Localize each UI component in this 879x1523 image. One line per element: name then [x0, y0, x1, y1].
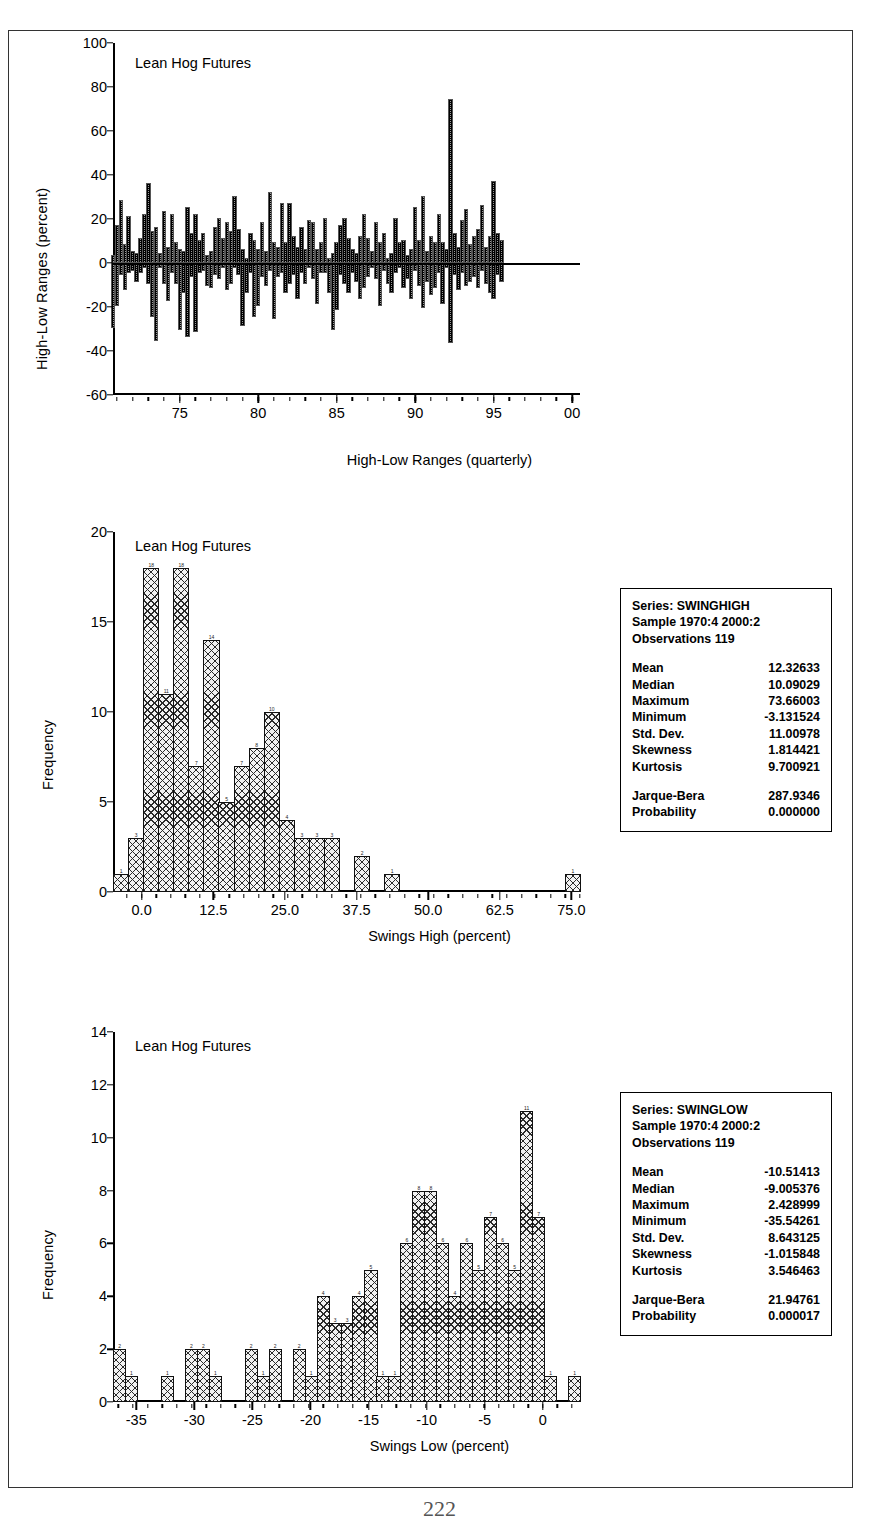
high-low-bar-positive: [222, 239, 224, 263]
y-tick-label: 2: [99, 1341, 107, 1357]
histogram-bar-value: 2: [298, 1344, 301, 1349]
stat-key: Jarque-Bera: [632, 788, 714, 804]
high-low-bar-negative: [347, 263, 349, 292]
high-low-bar-positive: [202, 234, 204, 263]
stat-value: 8.643125: [768, 1230, 820, 1246]
stat-key: Maximum: [632, 693, 699, 709]
chart2-plot-area: 13181118714578104333211 201510500.012.52…: [113, 532, 580, 892]
y-tick-mark: [107, 130, 113, 131]
y-tick-mark: [107, 1084, 113, 1085]
chart1-x-axis: [113, 393, 580, 395]
high-low-bar-positive: [457, 248, 459, 263]
histogram-bar-value: 6: [406, 1238, 409, 1243]
high-low-bar-positive: [434, 243, 436, 263]
y-tick-mark: [107, 1031, 113, 1032]
y-tick-mark: [107, 1348, 113, 1349]
x-tick-label: 75: [172, 405, 188, 421]
x-tick-mark-minor: [148, 397, 149, 401]
high-low-bar-positive: [265, 252, 267, 263]
x-tick-label: 00: [564, 405, 580, 421]
high-low-bar-positive: [253, 241, 255, 263]
x-tick-mark-minor: [477, 894, 478, 898]
x-tick-mark: [310, 1402, 311, 1410]
high-low-bar-negative: [245, 263, 247, 292]
stat-row: Minimum-35.54261: [632, 1213, 820, 1229]
x-tick-mark-minor: [243, 894, 244, 898]
high-low-bar-positive: [163, 212, 165, 263]
histogram-bar-value: 11: [164, 689, 169, 694]
stat-value: -35.54261: [764, 1213, 820, 1229]
high-low-bar-negative: [277, 263, 279, 276]
histogram-bar-value: 4: [322, 1291, 325, 1296]
histogram-bar: 1: [565, 874, 581, 892]
x-tick-mark-minor: [272, 894, 273, 898]
high-low-bar-negative: [449, 263, 451, 342]
x-tick-mark-minor: [381, 1404, 382, 1408]
histogram-bar-value: 3: [135, 833, 138, 838]
x-tick-mark-minor: [126, 894, 127, 898]
x-tick-mark-minor: [360, 894, 361, 898]
high-low-bar-positive: [426, 252, 428, 263]
high-low-bar-positive: [292, 237, 294, 263]
high-low-bar-negative: [163, 263, 165, 283]
x-tick-mark-minor: [527, 1404, 528, 1408]
high-low-bar-negative: [441, 263, 443, 303]
x-tick-mark-minor: [352, 397, 353, 401]
histogram-bar: 2: [269, 1349, 282, 1402]
histogram-bar: 7: [532, 1217, 545, 1402]
high-low-bar-positive: [198, 241, 200, 263]
stat-row: Probability0.000017: [632, 1308, 820, 1324]
high-low-bar-negative: [257, 263, 259, 305]
high-low-bar-positive: [284, 243, 286, 263]
x-tick-mark-minor: [540, 397, 541, 401]
high-low-bar-positive: [441, 243, 443, 263]
stat-value: 0.000017: [768, 1308, 820, 1324]
y-tick-label: 40: [91, 167, 107, 183]
high-low-bar-positive: [375, 223, 377, 263]
histogram-bar: 5: [218, 802, 234, 892]
histogram-bar-value: 4: [285, 815, 288, 820]
high-low-bar-negative: [406, 263, 408, 278]
x-tick-mark-minor: [440, 1404, 441, 1408]
x-tick-mark-minor: [375, 894, 376, 898]
histogram-bar-value: 2: [190, 1344, 193, 1349]
chart2-bars: 13181118714578104333211: [113, 532, 580, 892]
x-tick-mark-minor: [448, 894, 449, 898]
high-low-bar-positive: [339, 226, 341, 263]
high-low-bar-negative: [288, 263, 290, 283]
y-tick-mark: [107, 1190, 113, 1191]
y-tick-label: 0: [99, 884, 107, 900]
histogram-bar-value: 2: [202, 1344, 205, 1349]
histogram-bar-value: 1: [262, 1371, 265, 1376]
y-tick-label: 20: [91, 524, 107, 540]
chart3-plot-area: 211221212214334511688646576511711 141210…: [113, 1032, 580, 1402]
x-tick-mark-minor: [195, 397, 196, 401]
high-low-bar-positive: [261, 223, 263, 263]
histogram-bar-value: 1: [572, 869, 575, 874]
stat-key: Std. Dev.: [632, 1230, 694, 1246]
stat-value: 3.546463: [768, 1263, 820, 1279]
stat-value: 21.94761: [768, 1292, 820, 1308]
x-tick-mark-minor: [163, 397, 164, 401]
x-tick-mark-minor: [249, 1404, 250, 1408]
stat-key: Mean: [632, 660, 674, 676]
high-low-bar-positive: [237, 230, 239, 263]
x-tick-mark: [136, 1402, 137, 1410]
x-tick-mark: [356, 892, 357, 900]
histogram-bar-value: 18: [179, 563, 185, 568]
histogram-bar-value: 1: [166, 1371, 169, 1376]
y-tick-label: 10: [91, 704, 107, 720]
x-tick-mark-minor: [352, 1404, 353, 1408]
x-tick-mark: [257, 395, 258, 403]
high-low-bar-negative: [496, 263, 498, 274]
y-tick-label: 100: [83, 35, 107, 51]
stat-value: -10.51413: [764, 1164, 820, 1180]
y-tick-mark: [107, 86, 113, 87]
x-tick-label: 90: [407, 405, 423, 421]
stat-rows-test: Jarque-Bera21.94761Probability0.000017: [632, 1292, 820, 1325]
high-low-bar-negative: [230, 263, 232, 283]
high-low-bar-negative: [465, 263, 467, 285]
x-tick-label: -35: [126, 1412, 147, 1428]
histogram-bar-value: 2: [118, 1344, 121, 1349]
histogram-bar: 3: [309, 838, 325, 892]
